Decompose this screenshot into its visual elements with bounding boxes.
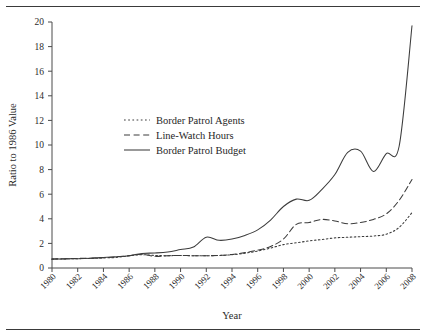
x-tick-label: 1988 [141,271,161,291]
x-tick-label: 1980 [38,271,58,291]
x-tick-label: 2004 [347,271,367,291]
x-tick-label: 2000 [295,271,315,291]
chart-plot-area: 02468101214161820 1980198219841986198819… [0,10,426,326]
y-tick-group: 02468101214161820 [35,17,53,273]
series-line-2 [52,26,412,259]
legend-label-2: Border Patrol Budget [156,145,246,156]
x-tick-label: 1994 [218,271,238,291]
figure-container: 02468101214161820 1980198219841986198819… [0,0,426,336]
line-chart: 02468101214161820 1980198219841986198819… [0,10,426,326]
y-axis-title: Ratio to 1986 Value [7,103,18,187]
x-tick-label: 2008 [398,271,418,291]
x-tick-label: 1986 [115,271,135,291]
y-tick-label: 20 [35,17,45,27]
y-tick-label: 16 [35,67,45,77]
bottom-rule [6,329,420,330]
x-tick-label: 1984 [90,271,110,291]
y-tick-label: 8 [39,165,44,175]
legend-label-1: Line-Watch Hours [156,130,234,141]
y-tick-label: 10 [35,140,45,150]
y-tick-label: 18 [35,42,45,52]
y-tick-label: 4 [39,214,44,224]
y-tick-label: 6 [39,190,44,200]
x-tick-label: 1982 [64,271,84,291]
y-tick-label: 14 [35,91,45,101]
x-tick-label: 1996 [244,271,264,291]
x-tick-label: 1990 [167,271,187,291]
top-rule [6,6,420,7]
series-line-0 [52,213,412,259]
chart-legend: Border Patrol AgentsLine-Watch HoursBord… [124,115,246,156]
x-axis-title: Year [222,310,242,321]
x-tick-label: 1992 [192,271,212,291]
x-tick-label: 2002 [321,271,341,291]
x-tick-label: 2006 [372,271,392,291]
y-tick-label: 2 [39,239,44,249]
legend-label-0: Border Patrol Agents [156,115,245,126]
y-tick-label: 12 [35,116,45,126]
x-tick-label: 1998 [270,271,290,291]
series-group [52,26,412,259]
x-tick-group: 1980198219841986198819901992199419961998… [38,268,418,291]
series-line-1 [52,179,412,258]
y-tick-label: 0 [39,263,44,273]
